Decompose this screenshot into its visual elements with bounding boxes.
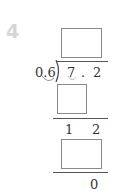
quotient-answer-box[interactable] [61,28,102,58]
second-product-box[interactable] [61,139,102,169]
dividend-digit-7: 7 [67,66,75,79]
problem-number: 4 [6,22,19,41]
first-subtraction-line [53,118,108,119]
first-product-box[interactable] [57,84,87,114]
second-subtraction-line [53,172,108,173]
dividend-digit-2: 2 [93,66,101,79]
remainder-digit-2: 2 [92,123,100,136]
final-remainder: 0 [90,178,98,191]
remainder-digit-1: 1 [65,123,73,136]
division-bar [57,61,108,62]
dividend-decimal-point: . [81,66,85,79]
